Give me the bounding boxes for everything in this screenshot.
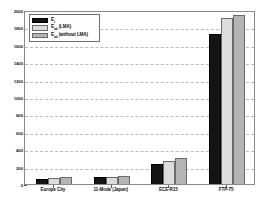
bar bbox=[209, 34, 221, 185]
y-axis-tick-label: 0 bbox=[1, 183, 23, 188]
bar bbox=[175, 158, 187, 184]
y-axis-tick-label: 800 bbox=[1, 113, 23, 118]
bar bbox=[163, 161, 175, 184]
x-axis-tick-label: FTP-75 bbox=[219, 187, 234, 193]
bar bbox=[106, 177, 118, 184]
legend-item-label: Eab (LMA) bbox=[51, 24, 71, 31]
y-axis-tick-label: 1800 bbox=[1, 26, 23, 31]
legend-item[interactable]: Eab (without LMA) bbox=[32, 32, 97, 39]
legend-swatch-icon bbox=[32, 33, 48, 39]
y-axis-tick-label: 600 bbox=[1, 130, 23, 135]
y-axis-tick-label: 1400 bbox=[1, 61, 23, 66]
y-axis-tick-label: 400 bbox=[1, 148, 23, 153]
y-axis-tick-label: 1000 bbox=[1, 96, 23, 101]
x-axis-tick-labels: Europe City11-Mode (Japan)ECE-R15FTP-75 bbox=[24, 187, 255, 201]
chart-legend: EtEab (LMA)Eab (without LMA) bbox=[29, 14, 100, 42]
bar bbox=[36, 179, 48, 184]
legend-swatch-icon bbox=[32, 25, 48, 31]
bar bbox=[60, 177, 72, 184]
bar bbox=[118, 176, 130, 184]
legend-item[interactable]: Et bbox=[32, 17, 97, 24]
y-axis-tick-label: 1600 bbox=[1, 43, 23, 48]
bar bbox=[94, 177, 106, 184]
y-axis-tick-label: 2000 bbox=[1, 9, 23, 14]
legend-item-label: Eab (without LMA) bbox=[51, 32, 88, 39]
bar-chart-figure: 0200400600800100012001400160018002000 Eu… bbox=[0, 0, 261, 213]
bar bbox=[48, 178, 60, 184]
legend-item-label: Et bbox=[51, 17, 55, 24]
bar bbox=[221, 18, 233, 184]
x-axis-tick-label: ECE-R15 bbox=[159, 187, 178, 193]
bar bbox=[151, 164, 163, 184]
bar-group bbox=[141, 12, 199, 184]
y-axis-tick-label: 200 bbox=[1, 165, 23, 170]
x-axis-tick-label: Europe City bbox=[41, 187, 66, 193]
x-axis-tick-label: 11-Mode (Japan) bbox=[93, 187, 128, 193]
y-axis-tick-labels: 0200400600800100012001400160018002000 bbox=[0, 11, 23, 185]
y-axis-tick-label: 1200 bbox=[1, 78, 23, 83]
legend-swatch-icon bbox=[32, 18, 48, 24]
bar-group bbox=[198, 12, 256, 184]
legend-item[interactable]: Eab (LMA) bbox=[32, 25, 97, 32]
bar bbox=[233, 15, 245, 184]
